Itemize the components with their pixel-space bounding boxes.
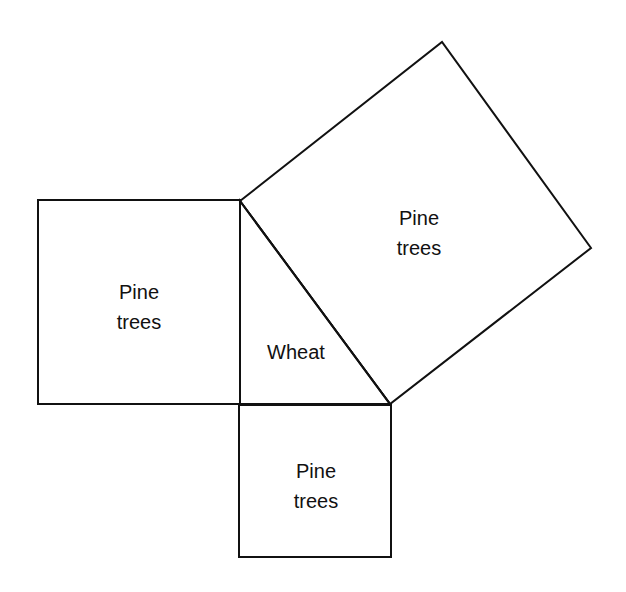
tilted-square-label-line1: Pine [399, 207, 439, 229]
bottom-square-label-line1: Pine [296, 460, 336, 482]
tilted-square-label-line2: trees [397, 237, 441, 259]
pythagorean-squares-figure: Pine trees Pine trees Pine trees Wheat [0, 0, 626, 592]
left-square-label-line2: trees [117, 311, 161, 333]
diagram-canvas: Pine trees Pine trees Pine trees Wheat [0, 0, 626, 592]
triangle-label: Wheat [267, 341, 325, 363]
triangle-label-line1: Wheat [267, 341, 325, 363]
left-square-label-line1: Pine [119, 281, 159, 303]
bottom-square-label-line2: trees [294, 490, 338, 512]
